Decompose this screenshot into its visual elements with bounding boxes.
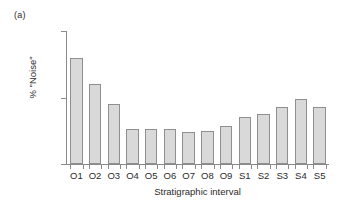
x-axis-tick-label: O9 [217, 170, 236, 181]
bar-slot [70, 31, 82, 164]
x-axis-tick [257, 165, 258, 169]
x-axis-tick [307, 165, 308, 169]
panel-label: (a) [14, 10, 26, 20]
x-axis-tick [288, 165, 289, 169]
x-axis-tick-label: O1 [67, 170, 86, 181]
bar [220, 126, 232, 164]
x-axis-tick [276, 165, 277, 169]
x-axis-tick-label: O2 [86, 170, 105, 181]
x-axis-tick [239, 165, 240, 169]
bar-slot [201, 31, 213, 164]
bar [89, 84, 101, 164]
y-axis-tick [61, 98, 66, 99]
bar-slot [239, 31, 251, 164]
x-axis-tick [126, 165, 127, 169]
bar-slot [313, 31, 325, 164]
x-axis-tick [145, 165, 146, 169]
x-axis-tick [164, 165, 165, 169]
x-axis-tick-label: S5 [310, 170, 329, 181]
x-axis-tick-label: S3 [273, 170, 292, 181]
x-axis-tick-label: O5 [142, 170, 161, 181]
bar-slot [108, 31, 120, 164]
x-axis-tick [251, 165, 252, 169]
x-axis-tick-label: O4 [123, 170, 142, 181]
bar-slot [276, 31, 288, 164]
bar [239, 117, 251, 164]
plot-area [67, 31, 329, 164]
x-axis-tick [157, 165, 158, 169]
bar-slot [89, 31, 101, 164]
bar-slot [164, 31, 176, 164]
x-axis-tick [182, 165, 183, 169]
x-axis-tick [326, 165, 327, 169]
x-axis-tick-label: O3 [104, 170, 123, 181]
x-axis-tick [313, 165, 314, 169]
x-axis-line [66, 164, 329, 165]
x-axis-tick [70, 165, 71, 169]
x-axis-tick [139, 165, 140, 169]
x-axis-tick-label: O7 [179, 170, 198, 181]
bar-slot [182, 31, 194, 164]
bar [126, 129, 138, 164]
x-axis-tick-label: O6 [161, 170, 180, 181]
bar-slot [295, 31, 307, 164]
x-axis-tick-label: S1 [235, 170, 254, 181]
bar [70, 58, 82, 164]
bar-slot [126, 31, 138, 164]
x-axis-tick [89, 165, 90, 169]
bar [257, 114, 269, 164]
x-axis-tick [195, 165, 196, 169]
x-axis-tick [214, 165, 215, 169]
bar [295, 99, 307, 164]
x-axis-tick [108, 165, 109, 169]
x-axis-tick [270, 165, 271, 169]
x-axis-label: Stratigraphic interval [66, 186, 329, 197]
x-axis-tick [295, 165, 296, 169]
y-axis-label: % "Noise" [27, 38, 38, 118]
bar [313, 107, 325, 164]
bar [145, 129, 157, 164]
x-axis-tick-label: O8 [198, 170, 217, 181]
y-axis-tick [61, 164, 66, 165]
bar [182, 132, 194, 164]
x-axis-tick [220, 165, 221, 169]
bar [108, 104, 120, 164]
bar-slot [257, 31, 269, 164]
x-axis-tick-label: S4 [292, 170, 311, 181]
bar [276, 107, 288, 164]
x-axis-tick [83, 165, 84, 169]
x-axis-tick [232, 165, 233, 169]
x-axis-tick [120, 165, 121, 169]
bar [164, 129, 176, 164]
bar-slot [145, 31, 157, 164]
bar-slot [220, 31, 232, 164]
y-axis-tick [61, 31, 66, 32]
figure-panel: (a) % "Noise" Stratigraphic interval 020… [0, 0, 345, 214]
x-axis-tick-label: S2 [254, 170, 273, 181]
x-axis-tick [101, 165, 102, 169]
x-axis-tick [201, 165, 202, 169]
x-axis-tick [176, 165, 177, 169]
bar [201, 131, 213, 164]
